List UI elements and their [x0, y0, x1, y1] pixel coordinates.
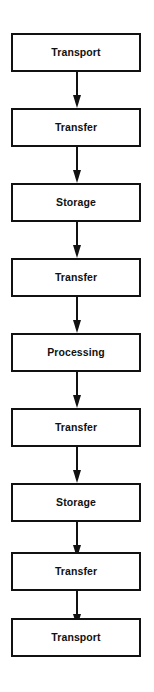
flow-node-transport-start: Transport [11, 33, 141, 72]
arrow-down-icon [66, 72, 88, 108]
arrow-down-icon [66, 297, 88, 333]
flow-node-processing: Processing [11, 333, 141, 372]
flow-node-label: Processing [47, 347, 105, 358]
flow-node-label: Transfer [55, 272, 97, 283]
flow-node-label: Transfer [55, 122, 97, 133]
arrow-down-icon [66, 222, 88, 258]
flow-node-transfer-1: Transfer [11, 108, 141, 147]
flow-node-storage-1: Storage [11, 183, 141, 222]
flow-node-transfer-2: Transfer [11, 258, 141, 297]
arrow-down-icon [66, 372, 88, 408]
flow-node-label: Transfer [55, 422, 97, 433]
flow-node-storage-2: Storage [11, 483, 141, 522]
flow-node-label: Transfer [55, 566, 97, 577]
flow-node-label: Transport [51, 632, 100, 643]
arrow-down-icon [66, 447, 88, 483]
arrow-down-icon [66, 147, 88, 183]
flow-node-label: Transport [51, 47, 100, 58]
flow-node-transfer-3: Transfer [11, 408, 141, 447]
flowchart-diagram: Transport Transfer Storage Transfer [0, 0, 154, 692]
flow-node-transport-end: Transport [11, 618, 141, 657]
flow-node-label: Storage [56, 197, 96, 208]
flow-node-transfer-4: Transfer [11, 552, 141, 591]
flow-node-label: Storage [56, 497, 96, 508]
